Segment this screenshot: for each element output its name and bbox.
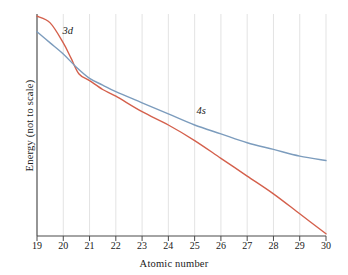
data-series <box>37 16 326 234</box>
x-tick-label: 23 <box>131 240 153 251</box>
x-tick-label: 22 <box>105 240 127 251</box>
x-axis-title: Atomic number <box>0 258 348 269</box>
series-3d-curve <box>37 16 326 234</box>
series-label-4s: 4s <box>197 105 206 116</box>
x-tick-label: 24 <box>157 240 179 251</box>
axis-lines <box>37 14 326 236</box>
x-tick-label: 27 <box>236 240 258 251</box>
gridlines <box>37 14 326 236</box>
x-tick-label: 19 <box>26 240 48 251</box>
y-axis-title: Energy (not to scale) <box>24 41 35 211</box>
chart-canvas <box>0 0 348 275</box>
series-label-3d: 3d <box>63 25 74 36</box>
x-tick-label: 29 <box>289 240 311 251</box>
energy-vs-atomic-number-chart: Atomic number Energy (not to scale) 1920… <box>0 0 348 275</box>
x-tick-label: 21 <box>79 240 101 251</box>
x-tick-label: 30 <box>315 240 337 251</box>
x-tick-label: 28 <box>262 240 284 251</box>
series-4s-curve <box>37 32 326 161</box>
x-tick-label: 20 <box>52 240 74 251</box>
x-tick-label: 25 <box>184 240 206 251</box>
x-tick-label: 26 <box>210 240 232 251</box>
